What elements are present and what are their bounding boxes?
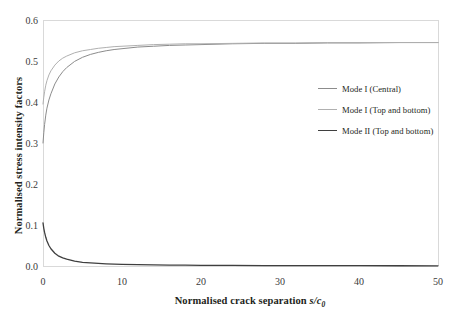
- x-axis-title: Normalised crack separation s/c0: [40, 295, 460, 309]
- legend-item-mode-1-top-bottom: Mode I (Top and bottom): [318, 99, 463, 120]
- legend-swatch-mode-2-top-bottom: [318, 130, 337, 131]
- x-axis-title-variable: s/c: [310, 295, 322, 306]
- plot-area: [0, 0, 463, 319]
- legend-swatch-mode-1-central: [318, 88, 337, 89]
- chart-figure: Normalised stress intensity factors 0.6 …: [0, 0, 463, 319]
- legend-label-mode-1-central: Mode I (Central): [342, 84, 401, 94]
- legend-item-mode-2-top-bottom: Mode II (Top and bottom): [318, 120, 463, 141]
- legend-swatch-mode-1-top-bottom: [318, 109, 337, 110]
- x-axis-title-main: Normalised crack separation: [175, 295, 310, 306]
- x-axis-title-subscript: 0: [322, 300, 326, 309]
- legend-label-mode-2-top-bottom: Mode II (Top and bottom): [342, 126, 433, 136]
- legend-item-mode-1-central: Mode I (Central): [318, 78, 463, 99]
- chart-legend: Mode I (Central) Mode I (Top and bottom)…: [318, 78, 463, 141]
- series-line-mode-ii-top-and-bottom: [43, 223, 438, 266]
- legend-label-mode-1-top-bottom: Mode I (Top and bottom): [342, 105, 430, 115]
